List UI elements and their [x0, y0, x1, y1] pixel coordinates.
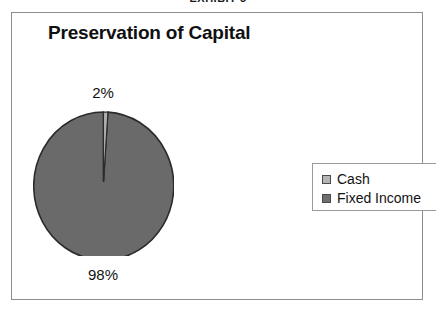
pie-label-cash: 2% [63, 84, 143, 101]
legend-swatch-cash [322, 175, 331, 184]
chart-title: Preservation of Capital [48, 22, 250, 44]
legend-item-cash: Cash [322, 170, 436, 188]
legend-swatch-fixed-income [322, 194, 331, 203]
pie-chart-svg [33, 108, 174, 256]
legend-item-fixed-income: Fixed Income [322, 189, 436, 207]
exhibit-header: EXHIBIT 5 [0, 0, 436, 5]
pie-label-fixed-income: 98% [63, 266, 143, 283]
legend-label-fixed-income: Fixed Income [337, 191, 421, 205]
pie-chart [33, 108, 174, 256]
legend-label-cash: Cash [337, 172, 370, 186]
chart-legend: Cash Fixed Income [312, 163, 436, 211]
